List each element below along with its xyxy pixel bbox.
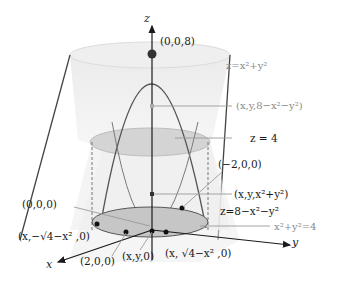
label-base-circle: x²+y²=4 (274, 221, 316, 232)
label-upper-surface-point: (x,y,8−x²−y²) (236, 100, 303, 111)
label-plane-z4: z = 4 (250, 132, 278, 144)
label-downward-paraboloid: z=8−x²−y² (220, 205, 279, 217)
point-minus-sqrt (95, 222, 100, 227)
point-plus-sqrt (164, 230, 169, 235)
point-upper-surface (150, 104, 154, 108)
label-top-point: (0,0,8) (160, 35, 195, 47)
plane-z4-disk (90, 128, 210, 156)
label-xy0-point: (x,y,0) (122, 250, 154, 262)
label-minus-sqrt-point: (x,−√4−x² ,0) (18, 230, 90, 242)
point-top (148, 50, 157, 59)
label-upward-paraboloid: z=x²+y² (226, 60, 267, 71)
label-plus-sqrt-point: (x, √4−x² ,0) (165, 247, 231, 259)
point-lower-surface (150, 192, 154, 196)
label-origin: (0,0,0) (22, 198, 57, 210)
label-two-point: (2,0,0) (80, 255, 115, 267)
lower-surface-shell (70, 142, 240, 262)
paraboloid-region-diagram: z x y (0,0,8) z=x²+y² (x,y,8−x²−y²) z = … (0, 0, 340, 285)
y-axis-label: y (291, 236, 299, 249)
x-axis-label: x (46, 258, 53, 271)
label-neg2-point: (−2,0,0) (218, 158, 262, 170)
label-lower-surface-point: (x,y,x²+y²) (234, 188, 288, 200)
z-axis-label: z (143, 12, 150, 25)
